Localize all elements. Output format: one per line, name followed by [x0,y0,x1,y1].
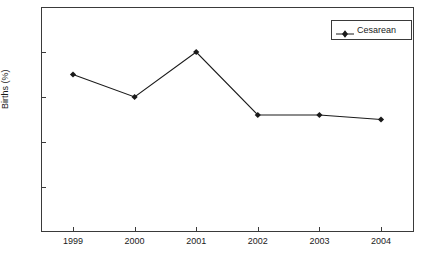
chart-legend: Cesarean [331,20,412,40]
x-tick-mark [381,227,382,232]
chart-figure: Births (%) 510152025 1999200020012002200… [0,0,424,260]
x-tick-label: 2002 [238,236,278,246]
y-tick-mark [41,187,46,188]
x-tick-mark [196,227,197,232]
x-tick-label: 1999 [53,236,93,246]
y-tick-mark [41,52,46,53]
x-tick-label: 2001 [176,236,216,246]
y-tick-mark [41,97,46,98]
x-tick-label: 2004 [361,236,401,246]
y-tick-mark [41,142,46,143]
legend-marker-cesarean [336,25,354,35]
legend-label-cesarean: Cesarean [357,25,396,35]
x-tick-mark [319,227,320,232]
x-tick-mark [258,227,259,232]
y-tick-mark [41,7,46,8]
plot-area [41,7,414,232]
x-tick-mark [73,227,74,232]
x-tick-label: 2000 [115,236,155,246]
x-tick-label: 2003 [299,236,339,246]
y-axis-label: Births (%) [0,95,10,109]
x-tick-mark [135,227,136,232]
